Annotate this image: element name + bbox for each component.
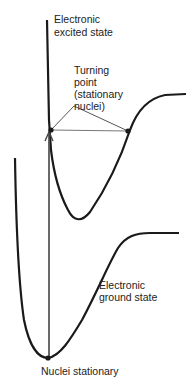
pointer-line-left [51, 106, 74, 130]
turning-point-connector [51, 130, 128, 131]
excited-state-label: Electronic excited state [54, 13, 113, 38]
excited-state-curve [47, 20, 186, 219]
turning-point-left-dot [48, 127, 53, 132]
turning-point-right-dot [125, 128, 130, 133]
franck-condon-diagram: Electronic excited state Turning point (… [0, 0, 196, 387]
ground-state-curve [15, 158, 179, 358]
ground-state-minimum-dot [45, 355, 50, 360]
ground-state-label: Electronic ground state [99, 279, 158, 303]
nuclei-stationary-label: Nuclei stationary [41, 365, 119, 377]
turning-point-label: Turning point (stationary nuclei) [74, 64, 126, 112]
